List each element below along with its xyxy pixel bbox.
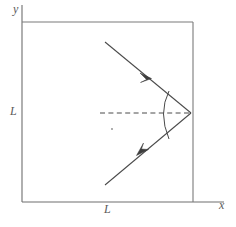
x-axis-label: x xyxy=(219,199,224,211)
side-length-label-left: L xyxy=(10,105,17,117)
y-axis-label: y xyxy=(13,3,18,15)
side-length-label-bottom: L xyxy=(104,203,111,215)
center-mark xyxy=(111,128,113,130)
reflection-diagram xyxy=(0,0,236,227)
reflected-ray xyxy=(105,113,191,185)
incident-ray-arrowhead xyxy=(140,73,152,83)
figure-container: y x L L xyxy=(0,0,236,227)
